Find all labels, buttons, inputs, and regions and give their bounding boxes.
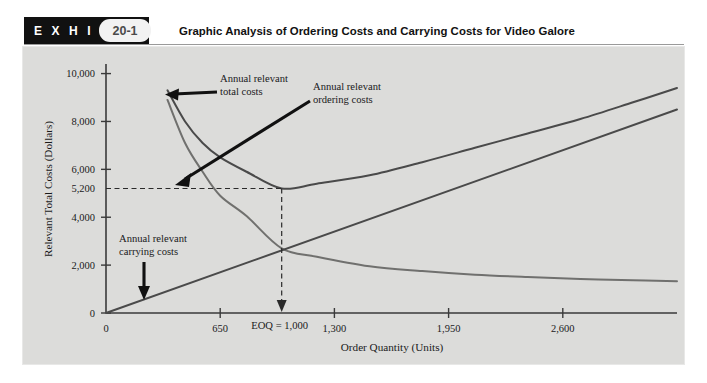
eoq-label: EOQ = 1,000 — [251, 320, 308, 331]
exhibit-number-label: 20-1 — [112, 24, 137, 38]
series-annual-relevant-ordering-costs — [167, 100, 677, 281]
x-axis-tick-label: 1,300 — [323, 323, 347, 334]
exhibit-title-container: Graphic Analysis of Ordering Costs and C… — [149, 17, 684, 44]
annotation-ordering-costs-arrow-shaft — [185, 101, 310, 179]
annotation-ordering-costs: Annual relevant ordering costs — [175, 81, 381, 187]
annotation-ordering-costs-arrowhead-icon — [175, 173, 191, 187]
x-axis-tick-label: 650 — [212, 323, 228, 334]
annotation-carrying-costs-line1: Annual relevant — [119, 233, 187, 244]
chart-panel: 02,0004,0005,2006,0008,00010,000 06501,3… — [22, 46, 685, 365]
annotation-carrying-costs: Annual relevant carrying costs — [119, 233, 187, 300]
annotation-total-costs-arrow-shaft — [174, 92, 217, 94]
chart-series — [106, 88, 677, 313]
annotation-total-costs: Annual relevant total costs — [165, 73, 288, 101]
x-axis-tick-label: 1,950 — [437, 323, 461, 334]
y-axis-title: Relevant Total Costs (Dollars) — [42, 121, 55, 257]
series-annual-relevant-carrying-costs — [106, 109, 677, 313]
y-axis-tick-label: 0 — [90, 308, 95, 319]
eoq-chart: 02,0004,0005,2006,0008,00010,000 06501,3… — [22, 46, 685, 365]
exhibit-title: Graphic Analysis of Ordering Costs and C… — [179, 25, 575, 37]
annotation-carrying-costs-line2: carrying costs — [119, 246, 178, 257]
annotation-total-costs-line2: total costs — [220, 86, 263, 97]
x-axis-tick-label: 0 — [103, 323, 108, 334]
y-axis-tick-labels: 02,0004,0005,2006,0008,00010,000 — [66, 68, 95, 318]
annotation-ordering-costs-line1: Annual relevant — [313, 81, 381, 92]
annotation-total-costs-line1: Annual relevant — [220, 73, 288, 84]
x-axis-title: Order Quantity (Units) — [341, 341, 444, 354]
y-axis-tick-label: 8,000 — [71, 116, 95, 127]
annotation-ordering-costs-line2: ordering costs — [313, 94, 373, 105]
y-axis-tick-label: 5,200 — [71, 183, 95, 194]
y-axis-tick-label: 6,000 — [71, 164, 95, 175]
eoq-arrowhead-icon — [277, 300, 287, 312]
series-annual-relevant-total-costs — [167, 88, 677, 189]
y-axis-tick-label: 10,000 — [66, 68, 95, 79]
x-axis-tick-label: 2,600 — [551, 323, 575, 334]
y-axis-tick-label: 2,000 — [71, 260, 95, 271]
exhibit-badge: E X H I B I T 20-1 — [24, 17, 149, 44]
exhibit-header: E X H I B I T 20-1 Graphic Analysis of O… — [24, 17, 684, 45]
y-axis-tick-label: 4,000 — [71, 212, 95, 223]
x-axis-tick-labels: 06501,3001,9502,600 — [103, 323, 574, 334]
exhibit-number-pill: 20-1 — [99, 19, 151, 42]
